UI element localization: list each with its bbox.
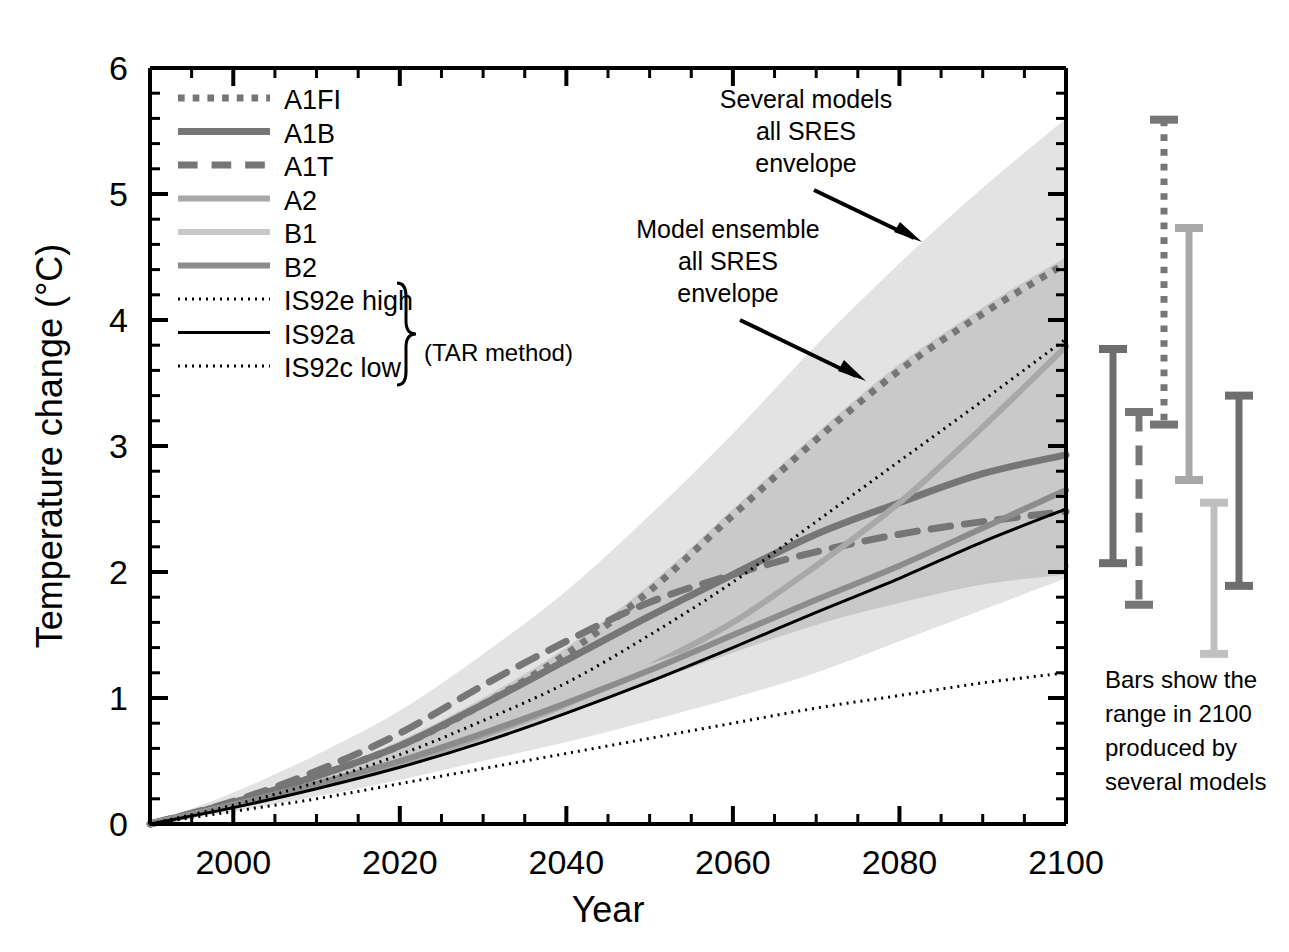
x-tick-label: 2080: [862, 843, 938, 881]
y-tick-label: 2: [109, 553, 128, 591]
x-tick-label: 2060: [695, 843, 771, 881]
y-tick-label: 6: [109, 49, 128, 87]
several-models-line-1: Several models: [720, 85, 892, 113]
x-tick-label: 2020: [362, 843, 438, 881]
climate-projection-chart: 6543210200020202040206020802100 Temperat…: [0, 0, 1289, 952]
bars-note-line-4: several models: [1105, 768, 1266, 795]
legend-brace-note: (TAR method): [424, 339, 573, 366]
legend-label-a1t: A1T: [284, 152, 334, 182]
several-models-line-3: envelope: [755, 149, 856, 177]
legend-label-a2: A2: [284, 186, 317, 216]
legend-label-a1b: A1B: [284, 119, 335, 149]
legend-label-a1fi: A1FI: [284, 85, 341, 115]
legend-label-is92c-low: IS92c low: [284, 353, 402, 383]
several-models-line-2: all SRES: [756, 117, 856, 145]
x-tick-label: 2000: [195, 843, 271, 881]
x-tick-label: 2100: [1028, 843, 1104, 881]
bars-note-line-3: produced by: [1105, 734, 1237, 761]
y-axis-title: Temperature change (°C): [29, 244, 70, 649]
y-tick-label: 4: [109, 301, 128, 339]
bars-note-line-1: Bars show the: [1105, 666, 1257, 693]
model-ensemble-line-2: all SRES: [678, 247, 778, 275]
y-tick-label: 1: [109, 679, 128, 717]
y-tick-label: 5: [109, 175, 128, 213]
bars-note-line-2: range in 2100: [1105, 700, 1252, 727]
y-tick-label: 3: [109, 427, 128, 465]
x-axis-title: Year: [572, 889, 645, 930]
legend-label-b1: B1: [284, 219, 317, 249]
legend-label-b2: B2: [284, 253, 317, 283]
model-ensemble-line-1: Model ensemble: [636, 215, 819, 243]
chart-figure: 6543210200020202040206020802100 Temperat…: [0, 0, 1289, 952]
model-ensemble-line-3: envelope: [677, 279, 778, 307]
y-tick-label: 0: [109, 805, 128, 843]
legend-label-is92e-high: IS92e high: [284, 286, 413, 316]
x-tick-label: 2040: [529, 843, 605, 881]
legend-label-is92a: IS92a: [284, 320, 356, 350]
